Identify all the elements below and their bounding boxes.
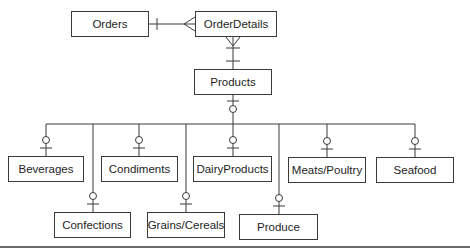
entity-orders: Orders [71,11,149,37]
entity-label: OrderDetails [204,18,269,30]
entity-condiments: Condiments [101,156,178,182]
entity-label: Meats/Poultry [292,164,362,176]
entity-label: Confections [62,219,123,231]
products-subtype-connector [46,95,415,124]
entity-beverages: Beverages [8,156,84,182]
beverages-connector [40,124,52,156]
entity-dairyproducts: DairyProducts [193,156,272,182]
bottom-divider [0,246,470,248]
entity-label: Orders [92,18,127,30]
meatspoultry-connector [321,124,333,157]
entity-label: Seafood [394,164,437,176]
entity-produce: Produce [239,214,318,240]
condiments-connector [133,124,145,156]
entity-label: DairyProducts [196,163,268,175]
entity-label: Condiments [109,163,170,175]
zero-circle-icon [230,106,237,113]
seafood-connector [409,124,421,157]
orderdetails-products-relationship [226,37,240,69]
entity-orderdetails: OrderDetails [195,11,277,37]
entity-label: Beverages [19,163,74,175]
orders-orderdetails-relationship [149,17,195,31]
entity-meatspoultry: Meats/Poultry [288,157,366,183]
entity-seafood: Seafood [376,157,454,183]
entity-grainscereals: Grains/Cereals [147,212,225,238]
confections-connector [87,124,99,212]
entity-label: Grains/Cereals [148,219,225,231]
entity-label: Products [210,76,255,88]
entity-confections: Confections [54,212,131,238]
produce-connector [273,124,285,214]
entity-label: Produce [257,221,300,233]
dairyproducts-connector [227,124,239,156]
entity-products: Products [194,69,272,95]
er-diagram: Orders OrderDetails Products Beverages C… [0,0,470,249]
grainscereals-connector [180,124,192,212]
